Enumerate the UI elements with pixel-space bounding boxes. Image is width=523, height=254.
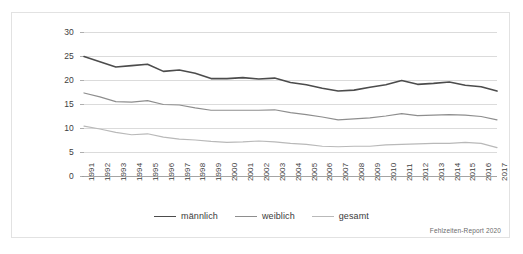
x-tick-label: 2000 — [230, 162, 239, 180]
x-tick-label: 2005 — [310, 162, 319, 180]
y-tick-label: 25 — [48, 51, 74, 61]
series-line-männlich — [84, 57, 497, 92]
y-tick-label: 10 — [48, 123, 74, 133]
x-tick-label: 2007 — [341, 162, 350, 180]
x-tick-label: 1997 — [183, 162, 192, 180]
series-line-gesamt — [84, 126, 497, 148]
y-tick-label: 20 — [48, 75, 74, 85]
series-line-weiblich — [84, 93, 497, 120]
data-series-group — [84, 57, 497, 148]
x-tick-label: 2015 — [468, 162, 477, 180]
y-tick-label: 15 — [48, 99, 74, 109]
x-tick-label: 2001 — [246, 162, 255, 180]
x-tick-label: 2014 — [453, 162, 462, 180]
x-tick-label: 1994 — [135, 162, 144, 180]
x-tick-label: 2012 — [421, 162, 430, 180]
x-tick-label: 2013 — [437, 162, 446, 180]
x-tick-label: 1993 — [119, 162, 128, 180]
x-tick-label: 1998 — [198, 162, 207, 180]
x-tick-label: 2002 — [262, 162, 271, 180]
x-tick-label: 2009 — [373, 162, 382, 180]
y-tick-label: 0 — [48, 171, 74, 181]
source-note: Fehlzeiten-Report 2020 — [430, 227, 501, 234]
x-tick-label: 1992 — [103, 162, 112, 180]
x-tick-label: 2003 — [278, 162, 287, 180]
gridlines-group — [84, 33, 497, 153]
y-tick-label: 30 — [48, 27, 74, 37]
x-tick-label: 2017 — [500, 162, 509, 180]
x-tick-label: 1991 — [87, 162, 96, 180]
x-tick-label: 2004 — [294, 162, 303, 180]
x-tick-label: 1995 — [151, 162, 160, 180]
chart-figure: 051015202530 199119921993199419951996199… — [0, 0, 523, 254]
x-tick-label: 1996 — [167, 162, 176, 180]
x-tick-label: 2016 — [484, 162, 493, 180]
x-tick-label: 1999 — [214, 162, 223, 180]
x-tick-label: 2008 — [357, 162, 366, 180]
x-tick-label: 2010 — [389, 162, 398, 180]
line-chart-plot — [0, 0, 523, 254]
x-tick-label: 2006 — [325, 162, 334, 180]
y-tick-label: 5 — [48, 147, 74, 157]
x-tick-label: 2011 — [405, 163, 414, 181]
